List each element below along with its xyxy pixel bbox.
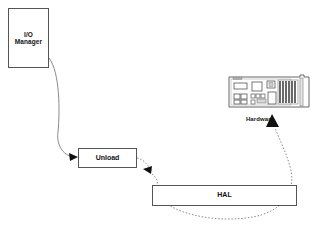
node-hal-label: HAL (217, 191, 231, 199)
node-unload-label: Unload (96, 154, 120, 162)
arrowhead-into-unload (69, 153, 78, 161)
node-io-manager-label-line2: Manager (15, 38, 42, 45)
node-unload[interactable]: Unload (78, 148, 137, 168)
node-io-manager[interactable]: I/O Manager (8, 8, 49, 68)
connector-unload-to-hal (137, 158, 157, 185)
arrowhead-into-hal (143, 166, 152, 174)
node-hal[interactable]: HAL (152, 185, 297, 206)
node-io-manager-text: I/O Manager (15, 31, 42, 46)
diagram-canvas: I/O Manager Unload HAL (0, 0, 312, 231)
hardware-label: Hardware (232, 116, 288, 122)
connector-io-manager-to-unload (49, 58, 78, 161)
node-io-manager-label-line1: I/O (15, 31, 42, 38)
